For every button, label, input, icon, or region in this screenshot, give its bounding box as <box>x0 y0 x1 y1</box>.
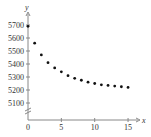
y-tick-label: 5600 <box>8 34 24 43</box>
data-point <box>47 61 50 64</box>
scatter-plot: yx5100520053005400550056005700051015 <box>0 0 151 137</box>
data-point <box>107 84 110 87</box>
data-point <box>53 67 56 70</box>
x-tick-label: 0 <box>26 123 30 132</box>
data-point <box>27 25 30 28</box>
y-tick-label: 5300 <box>8 73 24 82</box>
data-point <box>40 54 43 57</box>
data-point <box>73 77 76 80</box>
data-point <box>33 42 36 45</box>
data-point <box>127 86 130 89</box>
data-point <box>67 74 70 77</box>
y-tick-label: 5700 <box>8 21 24 30</box>
x-tick-label: 15 <box>124 123 132 132</box>
data-point <box>60 70 63 73</box>
data-point <box>120 85 123 88</box>
data-point <box>87 81 90 84</box>
x-tick-label: 10 <box>91 123 99 132</box>
y-tick-label: 5500 <box>8 47 24 56</box>
y-tick-label: 5100 <box>8 99 24 108</box>
x-tick-label: 5 <box>59 123 63 132</box>
data-point <box>113 85 116 88</box>
y-tick-label: 5400 <box>8 60 24 69</box>
data-point <box>80 79 83 82</box>
data-point <box>93 82 96 85</box>
y-tick-label: 5200 <box>8 86 24 95</box>
y-axis-label: y <box>24 3 29 12</box>
x-axis-label: x <box>141 116 146 125</box>
data-point <box>100 83 103 86</box>
chart: yx5100520053005400550056005700051015 <box>0 0 151 137</box>
